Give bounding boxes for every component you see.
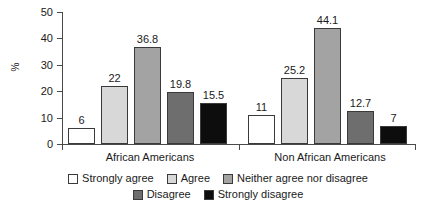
bar-group1-strongly-agree <box>68 128 95 144</box>
legend-swatch-strongly-agree <box>68 174 78 184</box>
legend-label-strongly-agree: Strongly agree <box>82 172 154 185</box>
y-tick-label-10: 10 <box>13 113 53 124</box>
legend-item-strongly-agree[interactable]: Strongly agree <box>68 172 154 185</box>
bar-group1-agree <box>101 86 128 144</box>
x-tick-mark-divider <box>239 145 240 150</box>
legend-swatch-strongly-disagree <box>204 190 214 200</box>
y-tick-label-20: 20 <box>13 86 53 97</box>
x-group-label-african-americans: African Americans <box>80 151 220 164</box>
bar-label-group1-strongly-disagree: 15.5 <box>194 90 233 101</box>
legend-label-strongly-disagree: Strongly disagree <box>218 188 304 201</box>
legend-row-1: Strongly agree Agree Neither agree nor d… <box>0 172 436 185</box>
bar-label-group1-neither: 36.8 <box>128 34 167 45</box>
bar-label-group2-neither: 44.1 <box>308 15 347 26</box>
y-tick-label-30: 30 <box>13 60 53 71</box>
legend-row-2: Disagree Strongly disagree <box>0 188 436 201</box>
legend-swatch-neither <box>223 174 233 184</box>
x-group-label-non-african-americans: Non African Americans <box>255 151 405 164</box>
legend-item-strongly-disagree[interactable]: Strongly disagree <box>204 188 304 201</box>
bar-label-group2-strongly-agree: 11 <box>242 102 281 113</box>
bar-label-group1-strongly-agree: 6 <box>62 115 101 126</box>
y-tick-label-0: 0 <box>13 139 53 150</box>
legend-label-agree: Agree <box>181 172 210 185</box>
y-tick-label-40: 40 <box>13 33 53 44</box>
legend-item-disagree[interactable]: Disagree <box>133 188 191 201</box>
plot-area: 6 22 36.8 19.8 15.5 11 25.2 44.1 12.7 7 <box>62 12 415 144</box>
bar-label-group2-strongly-disagree: 7 <box>374 113 413 124</box>
legend-swatch-disagree <box>133 190 143 200</box>
bar-label-group1-disagree: 19.8 <box>161 79 200 90</box>
bar-group1-strongly-disagree <box>200 103 227 144</box>
bar-label-group1-agree: 22 <box>95 73 134 84</box>
x-tick-mark-start <box>62 145 63 150</box>
legend-label-neither: Neither agree nor disagree <box>237 172 368 185</box>
bar-group2-strongly-disagree <box>380 126 407 145</box>
chart-legend: Strongly agree Agree Neither agree nor d… <box>0 172 436 204</box>
bar-group2-disagree <box>347 111 374 145</box>
bar-group2-strongly-agree <box>248 115 275 144</box>
legend-swatch-agree <box>167 174 177 184</box>
y-tick-label-50: 50 <box>13 7 53 18</box>
bar-label-group2-agree: 25.2 <box>275 65 314 76</box>
bar-group2-neither <box>314 28 341 144</box>
legend-label-disagree: Disagree <box>147 188 191 201</box>
bar-label-group2-disagree: 12.7 <box>341 98 380 109</box>
bar-group1-disagree <box>167 92 194 144</box>
legend-item-agree[interactable]: Agree <box>167 172 210 185</box>
legend-item-neither[interactable]: Neither agree nor disagree <box>223 172 368 185</box>
bar-group2-agree <box>281 78 308 145</box>
x-tick-mark-end <box>415 145 416 150</box>
bar-group1-neither <box>134 47 161 144</box>
bar-chart: % 50 40 30 20 10 0 6 22 36.8 19.8 <box>0 0 436 220</box>
